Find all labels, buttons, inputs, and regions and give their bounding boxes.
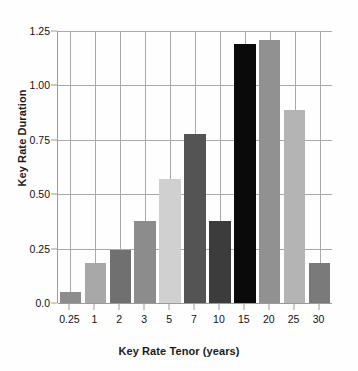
bars-layer [58,31,332,303]
bar [309,263,330,303]
bar [85,263,106,303]
plot-area [57,31,332,303]
y-tick-label: 1.00 [14,79,50,91]
bar [134,221,155,303]
bar [110,250,131,303]
bar [60,292,81,303]
bar-chart: Key Rate Duration 0.00.250.500.751.001.2… [0,0,358,371]
y-tick-mark [51,139,57,140]
x-tick-mark [243,303,244,310]
x-tick-label: 30 [299,313,339,325]
y-tick-label: 0.25 [14,243,50,255]
y-tick-label: 0.0 [14,297,50,309]
bar [234,44,255,303]
bar [284,110,305,303]
x-tick-mark [194,303,195,310]
bar [159,179,180,303]
y-tick-label: 1.25 [14,25,50,37]
y-tick-mark [51,303,57,304]
x-axis-title: Key Rate Tenor (years) [0,345,358,357]
x-tick-mark [293,303,294,310]
y-tick-mark [51,194,57,195]
y-tick-mark [51,31,57,32]
x-tick-mark [69,303,70,310]
x-tick-mark [318,303,319,310]
x-tick-mark [119,303,120,310]
bar [184,134,205,303]
y-tick-label: 0.50 [14,188,50,200]
x-tick-mark [94,303,95,310]
y-tick-label: 0.75 [14,134,50,146]
y-tick-mark [51,248,57,249]
x-tick-mark [169,303,170,310]
x-axis-tick-labels: 0.25123571015202530 [57,303,331,343]
x-tick-mark [268,303,269,310]
y-tick-mark [51,85,57,86]
x-tick-mark [218,303,219,310]
bar [209,221,230,303]
bar [259,40,280,303]
y-axis-tick-labels: 0.00.250.500.751.001.25 [14,0,50,371]
x-tick-mark [144,303,145,310]
